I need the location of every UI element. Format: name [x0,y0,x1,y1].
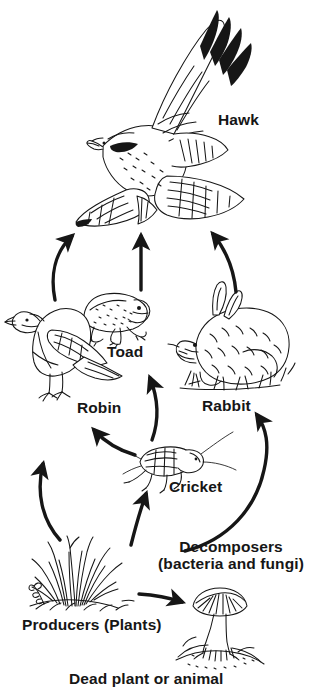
food-web-illustration [0,0,312,698]
toad-illustration [84,293,150,348]
label-hawk: Hawk [218,111,259,128]
label-cricket: Cricket [169,478,222,495]
label-decomposers-line1: Decomposers [179,538,283,555]
label-decomposers: Decomposers (bacteria and fungi) [152,538,310,573]
label-producers: Producers (Plants) [22,616,162,633]
producers-grass-illustration [29,536,134,611]
label-robin: Robin [77,399,121,416]
food-web-diagram: Hawk Toad Robin Rabbit Cricket Decompose… [0,0,312,698]
arrow-producers-to-cricket [131,494,146,545]
arrow-producers-to-robin [40,464,60,540]
label-toad: Toad [107,343,143,360]
arrow-cricket-to-robin [94,430,135,455]
label-decomposers-line2: (bacteria and fungi) [158,555,304,572]
arrow-producers-to-decomposers [139,594,182,602]
label-rabbit: Rabbit [202,397,251,414]
arrow-cricket-to-toad [150,378,157,440]
arrow-robin-to-hawk [53,236,72,300]
decomposers-mushroom-illustration [176,588,264,669]
rabbit-illustration [168,282,295,390]
label-dead-plant-or-animal: Dead plant or animal [69,670,223,687]
